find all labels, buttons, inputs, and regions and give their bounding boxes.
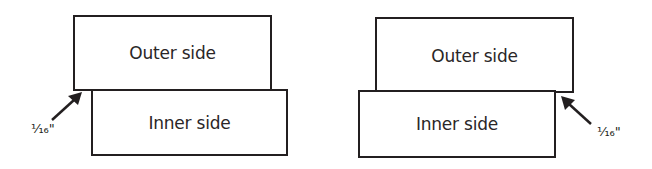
- offset-arrows: [0, 0, 652, 169]
- right-arrow-icon: [561, 96, 591, 124]
- left-arrow-icon: [52, 92, 82, 120]
